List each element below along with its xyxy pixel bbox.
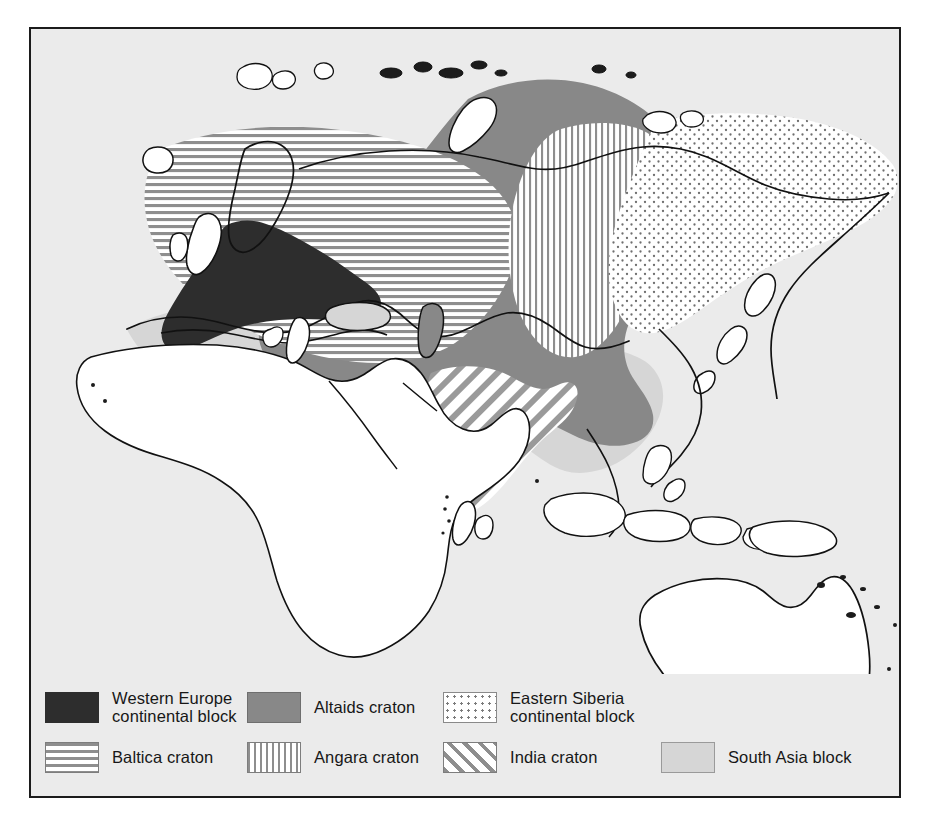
legend-row-1: Western Europe continental block Altaids…: [45, 682, 885, 732]
legend-row-2: Baltica craton Angara craton India crato…: [45, 732, 885, 782]
legend-swatch-south-asia: [661, 742, 715, 773]
legend-label-angara: Angara craton: [314, 748, 419, 767]
landmass-ireland: [170, 233, 188, 261]
legend-item-india[interactable]: India craton: [443, 732, 661, 782]
landmass-australia: [640, 577, 870, 674]
legend-item-south-asia[interactable]: South Asia block: [661, 732, 873, 782]
legend-swatch-baltica: [45, 742, 99, 773]
map-canvas: [31, 29, 899, 674]
legend-swatch-india: [443, 742, 497, 773]
legend-label-altaids: Altaids craton: [314, 698, 415, 717]
legend-label-western-europe: Western Europe continental block: [112, 689, 237, 726]
legend-swatch-altaids: [247, 692, 301, 723]
legend-label-baltica: Baltica craton: [112, 748, 213, 767]
legend-item-angara[interactable]: Angara craton: [247, 732, 443, 782]
legend-item-western-europe[interactable]: Western Europe continental block: [45, 682, 247, 732]
legend-item-altaids[interactable]: Altaids craton: [247, 682, 443, 732]
legend-item-baltica[interactable]: Baltica craton: [45, 732, 247, 782]
figure-frame: Western Europe continental block Altaids…: [29, 27, 901, 798]
world-map: [31, 29, 899, 674]
legend-swatch-eastern-siberia: [443, 692, 497, 723]
waterbody-black-sea: [326, 303, 391, 331]
map-legend: Western Europe continental block Altaids…: [31, 674, 899, 796]
legend-item-eastern-siberia[interactable]: Eastern Siberia continental block: [443, 682, 661, 732]
figure-page: Western Europe continental block Altaids…: [0, 0, 931, 834]
legend-label-eastern-siberia: Eastern Siberia continental block: [510, 689, 635, 726]
legend-swatch-angara: [247, 742, 301, 773]
landmass-iceland: [143, 147, 173, 173]
landmass-sri-lanka: [475, 515, 493, 539]
legend-label-south-asia: South Asia block: [728, 748, 852, 767]
legend-swatch-western-europe: [45, 692, 99, 723]
legend-label-india: India craton: [510, 748, 597, 767]
